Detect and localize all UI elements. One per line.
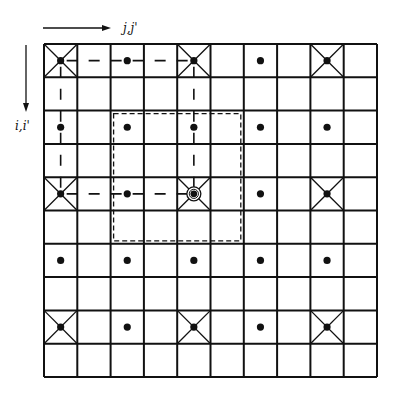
lattice-point-dot xyxy=(57,57,64,64)
horizontal-axis-label: j,j' xyxy=(120,21,138,35)
circled-point-dot xyxy=(190,190,197,197)
horizontal-arrowhead-icon xyxy=(102,25,111,31)
lattice-point-dot xyxy=(190,257,197,264)
lattice-point-dot xyxy=(257,190,264,197)
lattice-point-dot xyxy=(257,57,264,64)
horizontal-axis: j,j' xyxy=(43,21,138,35)
lattice-point-dot xyxy=(57,124,64,131)
circled-point xyxy=(187,187,201,201)
lattice-point-dot xyxy=(57,257,64,264)
vertical-axis: i,i' xyxy=(15,45,30,133)
lattice-point-dot xyxy=(124,57,131,64)
lattice-point-dot xyxy=(57,323,64,330)
lattice-point-dot xyxy=(323,257,330,264)
lattice-point-dot xyxy=(124,323,131,330)
lattice-point-dot xyxy=(323,190,330,197)
lattice-point-dot xyxy=(257,124,264,131)
lattice-point-dot xyxy=(323,57,330,64)
lattice-point-dot xyxy=(124,124,131,131)
lattice-point-dot xyxy=(190,124,197,131)
lattice-point-dot xyxy=(124,257,131,264)
lattice-point-dot xyxy=(190,57,197,64)
vertical-axis-label: i,i' xyxy=(15,119,30,133)
lattice-point-dot xyxy=(190,323,197,330)
lattice-point-dot xyxy=(257,257,264,264)
lattice-point-dot xyxy=(257,323,264,330)
lattice-point-dot xyxy=(124,190,131,197)
lattice-point-dot xyxy=(57,190,64,197)
lattice-diagram: j,j' i,i' xyxy=(0,0,397,397)
lattice-point-dot xyxy=(323,124,330,131)
vertical-arrowhead-icon xyxy=(23,103,29,112)
lattice-point-dot xyxy=(323,323,330,330)
